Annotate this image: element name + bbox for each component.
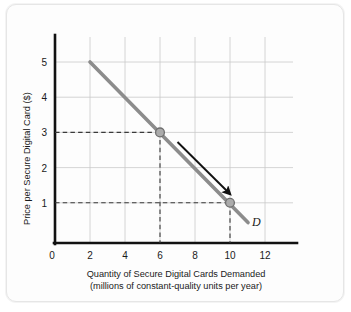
dashed-guides [55,132,230,243]
axes [54,35,297,244]
y-axis-title: Price per Secure Digital Card ($) [22,92,32,225]
point-b-marker [226,198,235,207]
y-tick-label-4: 4 [41,92,47,103]
demand-curve-label: D [251,215,261,229]
y-tick-label-2: 2 [41,163,47,174]
gridlines [55,37,293,243]
demand-curve-chart: 5 4 3 2 1 0 2 4 6 8 10 12 Price per Secu… [0,0,351,312]
figure-page: 5 4 3 2 1 0 2 4 6 8 10 12 Price per Secu… [0,0,351,312]
x-tick-labels: 0 2 4 6 8 10 12 [49,250,271,261]
x-tick-label-2: 2 [87,250,93,261]
y-tick-label-1: 1 [41,198,47,209]
x-tick-label-4: 4 [122,250,128,261]
y-tick-labels: 5 4 3 2 1 [41,57,47,209]
x-tick-label-12: 12 [259,250,271,261]
point-a-marker [156,128,165,137]
x-tick-label-8: 8 [192,250,198,261]
y-tick-label-3: 3 [41,127,47,138]
x-axis-title-line1: Quantity of Secure Digital Cards Demande… [87,269,266,279]
x-tick-label-0: 0 [49,250,55,261]
x-tick-label-6: 6 [157,250,163,261]
demand-curve-line [90,62,248,223]
y-tick-label-5: 5 [41,57,47,68]
x-tick-label-10: 10 [224,250,236,261]
x-axis-title-line2: (millions of constant-quality units per … [90,281,262,291]
